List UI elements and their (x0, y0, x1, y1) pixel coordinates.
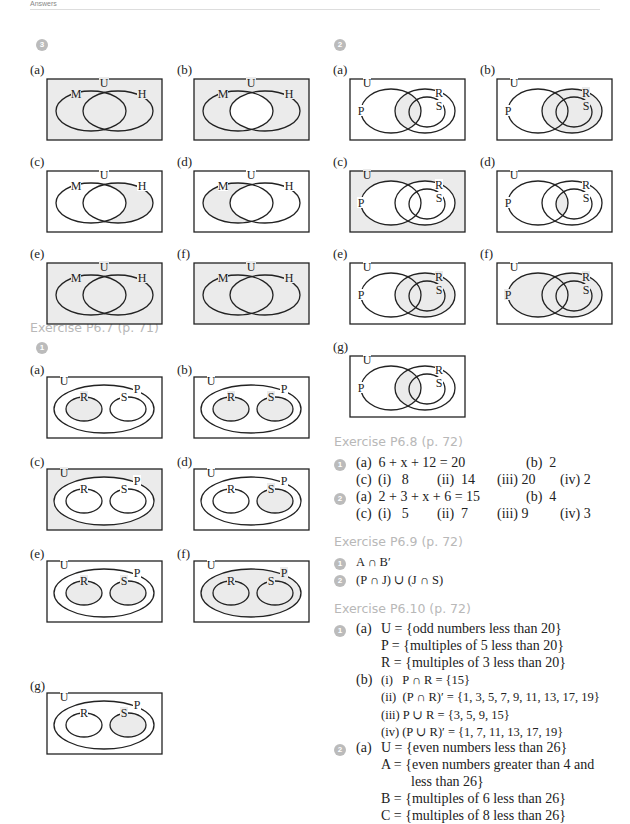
svg-text:P: P (358, 104, 365, 118)
svg-text:S: S (121, 390, 128, 404)
exercise-heading: Exercise P6.10 (p. 72) (334, 601, 471, 616)
question-badge: 2 (334, 39, 346, 51)
svg-text:P: P (281, 382, 288, 396)
svg-text:P: P (281, 474, 288, 488)
svg-text:H: H (138, 271, 147, 285)
svg-text:U: U (60, 466, 69, 480)
svg-text:P: P (134, 474, 141, 488)
venn-diagram-prs: UPRS (496, 78, 613, 141)
svg-text:M: M (71, 87, 82, 101)
svg-text:R: R (227, 574, 235, 588)
venn-diagram-prs: UPRS (496, 262, 613, 325)
answer-label: (b) (356, 672, 372, 688)
diagram-label: (b) (177, 362, 192, 378)
header-divider (30, 9, 600, 10)
venn-diagram-rsp: UPRS (193, 376, 310, 439)
venn-diagram-prs: UPRS (349, 355, 466, 418)
diagram-label: (c) (30, 154, 44, 170)
answer-line: (i) 5 (378, 506, 409, 522)
svg-text:S: S (121, 482, 128, 496)
question-badge: 2 (334, 493, 346, 505)
svg-text:U: U (207, 374, 216, 388)
answer-line: C = {multiples of 8 less than 26} (381, 808, 566, 824)
diagram-label: (a) (30, 362, 44, 378)
svg-text:S: S (583, 283, 590, 297)
diagram-label: (a) (30, 62, 44, 78)
svg-text:U: U (247, 260, 256, 274)
svg-text:U: U (100, 260, 109, 274)
answer-line: (iv) 3 (560, 506, 591, 522)
svg-text:M: M (71, 271, 82, 285)
svg-text:S: S (268, 390, 275, 404)
answer-line: (iii) P ∪ R = {3, 5, 9, 15} (381, 707, 510, 723)
svg-text:U: U (247, 76, 256, 90)
svg-text:H: H (138, 87, 147, 101)
diagram-label: (f) (177, 246, 190, 262)
answer-line: (i) P ∩ R = {15} (381, 673, 470, 688)
svg-text:U: U (60, 374, 69, 388)
answer-line: (b) 4 (526, 489, 556, 505)
venn-diagram-rsp: UPRS (46, 560, 163, 623)
diagram-label: (f) (480, 246, 493, 262)
diagram-label: (b) (480, 62, 495, 78)
question-badge: 3 (36, 39, 48, 51)
answer-line: P = {multiples of 5 less than 20} (381, 638, 564, 654)
venn-diagram-prs: UPRS (349, 78, 466, 141)
svg-text:P: P (505, 104, 512, 118)
answer-line: (iv) 2 (560, 472, 591, 488)
diagram-label: (c) (30, 454, 44, 470)
svg-text:P: P (358, 288, 365, 302)
svg-text:R: R (227, 482, 235, 496)
diagram-label: (g) (30, 678, 45, 694)
diagram-label: (g) (333, 339, 348, 355)
svg-text:R: R (80, 706, 88, 720)
answer-line: (a) 2 + 3 + x + 6 = 15 (356, 489, 480, 505)
svg-text:S: S (268, 574, 275, 588)
venn-diagram-mh: UMH (193, 170, 310, 233)
diagram-label: (d) (177, 454, 192, 470)
svg-text:U: U (60, 558, 69, 572)
exercise-heading: Exercise P6.8 (p. 72) (334, 434, 463, 449)
svg-text:P: P (358, 196, 365, 210)
answer-line: A ∩ B′ (356, 555, 391, 570)
answer-line: (ii) (P ∩ R)′ = {1, 3, 5, 7, 9, 11, 13, … (381, 690, 600, 705)
answer-line: less than 26} (411, 774, 484, 790)
question-badge: 1 (334, 459, 346, 471)
venn-diagram-rsp: UPRS (46, 468, 163, 531)
question-badge: 1 (334, 625, 346, 637)
venn-diagram-prs: UPRS (349, 262, 466, 325)
answer-line: U = {odd numbers less than 20} (381, 621, 562, 637)
svg-text:R: R (582, 178, 590, 192)
venn-diagram-mh: UMH (46, 262, 163, 325)
svg-text:U: U (100, 168, 109, 182)
svg-text:R: R (435, 363, 443, 377)
question-badge: 1 (36, 342, 48, 354)
svg-text:M: M (218, 87, 229, 101)
svg-text:P: P (134, 566, 141, 580)
venn-diagram-mh: UMH (193, 78, 310, 141)
svg-text:U: U (510, 76, 519, 90)
svg-text:H: H (285, 179, 294, 193)
svg-text:U: U (363, 353, 372, 367)
answer-line: (ii) 14 (437, 472, 475, 488)
svg-text:U: U (510, 260, 519, 274)
svg-text:P: P (281, 566, 288, 580)
svg-text:U: U (60, 690, 69, 704)
diagram-label: (f) (177, 546, 190, 562)
svg-text:S: S (436, 283, 443, 297)
answer-line: (ii) 7 (437, 506, 468, 522)
svg-text:U: U (100, 76, 109, 90)
svg-text:S: S (121, 706, 128, 720)
svg-text:R: R (435, 178, 443, 192)
venn-diagram-rsp: UPRS (193, 560, 310, 623)
svg-text:U: U (363, 168, 372, 182)
svg-text:S: S (121, 574, 128, 588)
svg-text:U: U (247, 168, 256, 182)
venn-diagram-prs: UPRS (496, 170, 613, 233)
answer-line: R = {multiples of 3 less than 20} (381, 655, 566, 671)
svg-text:S: S (268, 482, 275, 496)
answer-line: (c) (356, 506, 372, 522)
svg-text:P: P (505, 288, 512, 302)
diagram-label: (e) (30, 246, 44, 262)
svg-text:R: R (582, 86, 590, 100)
